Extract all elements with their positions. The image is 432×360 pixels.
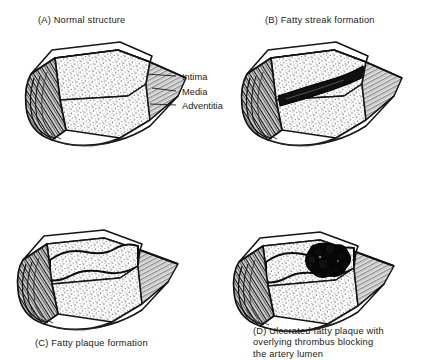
panel-d-artery-illustration bbox=[216, 162, 432, 324]
panel-b-vessel-body bbox=[242, 42, 402, 146]
panel-c-artery-illustration bbox=[0, 162, 216, 324]
panel-d-media-flap bbox=[354, 252, 394, 306]
panel-d-thrombus-lobe-5 bbox=[332, 265, 341, 274]
panel-d-thrombus-lobe-4 bbox=[318, 259, 328, 269]
panel-b-fatty-streak: (B) Fatty streak formation bbox=[216, 0, 432, 162]
panel-d-thrombus-lobe-3 bbox=[336, 251, 345, 260]
panel-d-thrombus-lobe-2 bbox=[325, 244, 335, 254]
panel-d-thrombus-lobe-6 bbox=[308, 256, 316, 264]
panel-b-artery-illustration bbox=[216, 0, 432, 162]
panel-a-artery-illustration bbox=[0, 0, 216, 162]
panel-d-caption: (D) Ulcerated fatty plaque with overlyin… bbox=[253, 326, 384, 360]
panel-d-ulcerated-plaque-thrombus: (D) Ulcerated fatty plaque with overlyin… bbox=[216, 162, 432, 324]
panel-b-media-flap bbox=[362, 62, 402, 120]
panel-d-vessel-body bbox=[234, 232, 394, 332]
panel-d-thrombus-lobe-1 bbox=[314, 248, 323, 257]
panel-c-vessel-body bbox=[18, 230, 178, 330]
panel-a-media-flap bbox=[146, 62, 186, 120]
panel-d-thrombus bbox=[306, 243, 351, 277]
panel-c-caption: (C) Fatty plaque formation bbox=[35, 338, 148, 349]
panel-a-normal-structure: (A) Normal structure bbox=[0, 0, 216, 162]
panel-d-thrombus-highlight-1 bbox=[319, 256, 322, 259]
panel-d-thrombus-highlight-2 bbox=[337, 260, 339, 262]
panel-c-media-flap bbox=[138, 250, 178, 304]
panel-c-fatty-plaque: (C) Fatty plaque formation bbox=[0, 162, 216, 324]
panel-a-vessel-body bbox=[26, 42, 186, 146]
